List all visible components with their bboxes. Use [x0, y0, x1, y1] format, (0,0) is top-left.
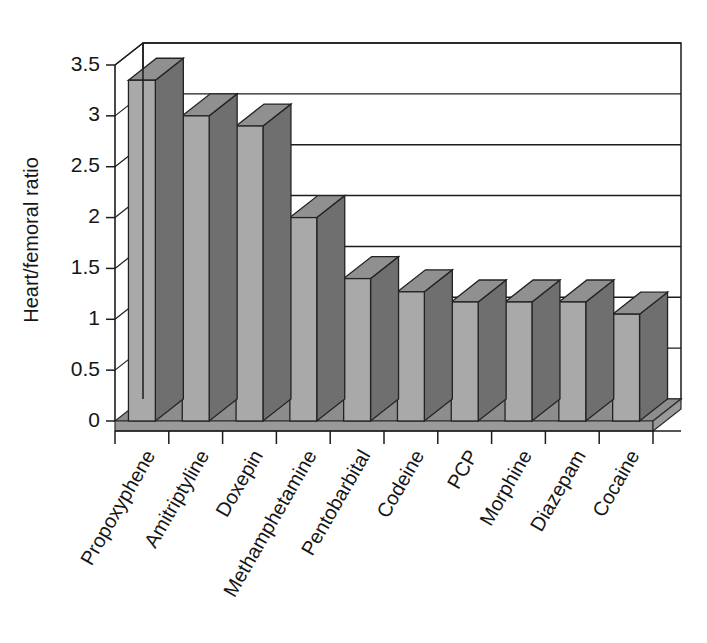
- bar-column: [182, 94, 237, 421]
- y-tick: 3: [88, 102, 115, 125]
- y-tick: 1.5: [71, 255, 115, 278]
- x-axis-label: Cocaine: [588, 446, 644, 521]
- bar-chart-canvas: 00.511.522.533.5 PropoxypheneAmitriptyli…: [0, 0, 707, 643]
- bar-column: [397, 270, 452, 421]
- x-axis-label: PCP: [443, 446, 483, 493]
- y-tick-label: 1: [88, 306, 100, 329]
- y-tick-label: 2: [88, 204, 100, 227]
- y-tick: 1: [88, 306, 115, 329]
- y-tick: 3.5: [71, 52, 115, 75]
- y-tick-label: 0: [88, 408, 100, 431]
- x-axis-label: Doxepin: [211, 446, 267, 521]
- bar-column: [559, 280, 614, 421]
- x-axis-label: Propoxyphene: [76, 446, 160, 569]
- y-axis-title-text: Heart/femoral ratio: [20, 157, 42, 323]
- bar-column: [451, 280, 506, 421]
- y-tick-label: 1.5: [71, 255, 100, 278]
- bar-column: [290, 196, 345, 421]
- y-tick-label: 0.5: [71, 357, 100, 380]
- y-tick: 2.5: [71, 153, 115, 176]
- y-tick-group: 00.511.522.533.5: [71, 52, 115, 431]
- y-tick-label: 3: [88, 102, 100, 125]
- bar-column: [128, 58, 183, 421]
- x-axis-label: Codeine: [372, 446, 428, 522]
- x-axis-label: Morphine: [475, 446, 536, 529]
- bar-column: [344, 257, 399, 421]
- bar-column: [505, 280, 560, 421]
- x-axis-label: Diazepam: [526, 446, 590, 535]
- y-tick: 0.5: [71, 357, 115, 380]
- x-axis-labels-group: PropoxypheneAmitriptylineDoxepinMethamph…: [76, 446, 644, 600]
- x-tick-group: [115, 431, 653, 444]
- bar-column: [613, 292, 668, 421]
- bar-column: [236, 104, 291, 421]
- y-tick-label: 2.5: [71, 153, 100, 176]
- y-tick: 0: [88, 408, 115, 431]
- y-tick-label: 3.5: [71, 52, 100, 75]
- y-tick: 2: [88, 204, 115, 227]
- y-axis-title: Heart/femoral ratio: [20, 157, 42, 323]
- chart-figure: 00.511.522.533.5 PropoxypheneAmitriptyli…: [0, 0, 707, 643]
